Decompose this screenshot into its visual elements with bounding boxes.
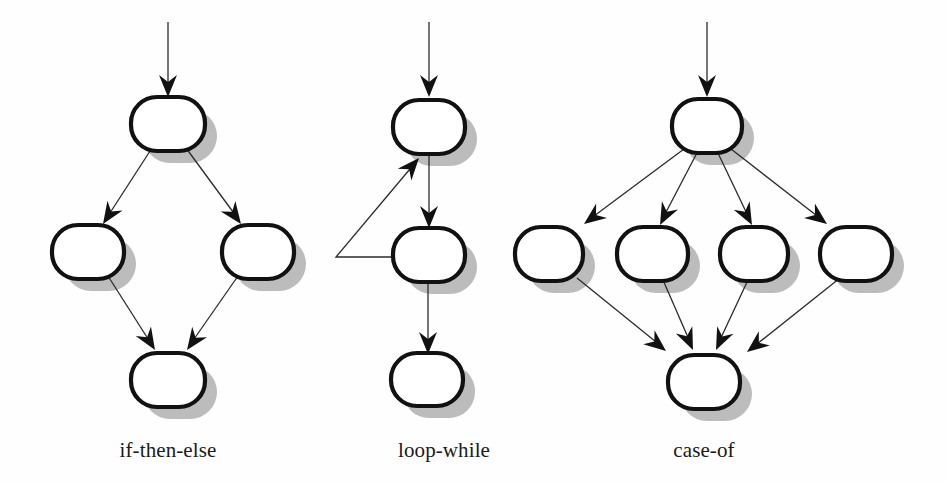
edges (577, 22, 840, 348)
node-join[interactable] (668, 355, 740, 409)
edges (108, 22, 238, 342)
diagram-case-of: case-of (515, 22, 904, 462)
diagram-loop-while: loop-while (336, 22, 490, 462)
arrowhead-selector-case-1 (579, 204, 607, 232)
edge-condition-to-else (186, 148, 236, 216)
node-case-4[interactable] (820, 227, 892, 281)
node-case-1[interactable] (515, 227, 583, 281)
edge-then-to-join (108, 276, 150, 342)
edge-selector-to-case-1 (590, 149, 684, 219)
nodes (391, 100, 465, 406)
edge-case-3-to-join (719, 280, 748, 342)
node-join[interactable] (131, 353, 205, 407)
diagram-if-then-else: if-then-else (52, 22, 306, 462)
control-flow-figure: if-then-else (0, 0, 946, 482)
caption-if-then-else: if-then-else (120, 438, 217, 462)
arrowhead-else-join (180, 327, 207, 355)
arrowhead-case-2-join (676, 326, 701, 353)
caption-loop-while: loop-while (398, 438, 490, 462)
node-case-3[interactable] (720, 227, 788, 281)
nodes (515, 99, 892, 409)
figure-canvas: if-then-else (0, 0, 946, 482)
node-condition[interactable] (131, 97, 205, 151)
arrowhead-then-join (136, 327, 163, 355)
node-else-branch[interactable] (222, 225, 294, 279)
caption-case-of: case-of (673, 438, 734, 462)
arrowhead-case-4-join (741, 331, 769, 359)
node-loop-body[interactable] (393, 228, 465, 282)
edge-else-to-join (192, 276, 238, 342)
node-selector[interactable] (672, 99, 742, 153)
arrowhead-selector-case-4 (804, 204, 832, 232)
node-case-2[interactable] (617, 227, 688, 281)
node-loop-header[interactable] (393, 100, 465, 154)
arrowhead-case-3-join (708, 326, 734, 354)
edges (336, 22, 429, 345)
nodes (52, 97, 294, 407)
node-loop-exit[interactable] (391, 353, 463, 406)
node-then-branch[interactable] (52, 225, 124, 279)
edge-condition-to-then (108, 148, 152, 216)
